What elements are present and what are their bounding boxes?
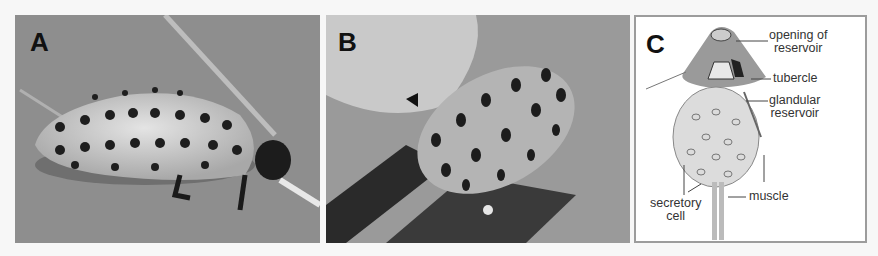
panel-b-photo: B xyxy=(326,15,630,243)
label-opening: opening ofreservoir xyxy=(769,29,827,55)
label-opening-line1: opening of xyxy=(769,28,827,42)
label-tubercle: tubercle xyxy=(773,72,817,85)
panel-label-a: A xyxy=(30,29,49,55)
panel-c-diagram: C opening ofreservoir tubercle glandular… xyxy=(634,15,867,243)
panel-a-photo: A xyxy=(15,15,320,243)
label-secretory-line2: cell xyxy=(666,209,685,223)
panel-label-b: B xyxy=(338,29,357,55)
label-glandular-line2: reservoir xyxy=(770,106,819,120)
label-secretory: secretorycell xyxy=(650,197,701,223)
label-glandular: glandularreservoir xyxy=(769,94,820,120)
label-secretory-line1: secretory xyxy=(650,196,701,210)
larva-top-photo xyxy=(326,15,630,243)
larva-side-photo xyxy=(15,15,320,243)
label-muscle: muscle xyxy=(749,190,789,203)
label-opening-line2: reservoir xyxy=(774,41,823,55)
panel-label-c: C xyxy=(646,31,665,57)
label-glandular-line1: glandular xyxy=(769,93,820,107)
